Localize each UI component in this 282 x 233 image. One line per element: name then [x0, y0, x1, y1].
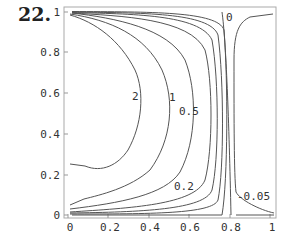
y-tick-label: 0.4 — [40, 128, 60, 141]
y-tick-label: 0.6 — [40, 87, 60, 100]
x-tick-label: 0.2 — [100, 221, 120, 233]
contour-level-1 — [70, 14, 170, 205]
y-tick-label: 1 — [53, 6, 60, 19]
x-tick-label: 0.4 — [140, 221, 160, 233]
x-tick-label: 0 — [67, 221, 74, 233]
contour-label: 2 — [132, 90, 139, 103]
contour-label: 0 — [226, 11, 233, 24]
contour-level-0.02 — [72, 12, 227, 216]
y-tick-label: 0.8 — [40, 46, 60, 59]
contour-level-neg-0.05 — [234, 14, 274, 213]
x-tick-label: 1 — [269, 221, 276, 233]
contour-label: 1 — [169, 91, 176, 104]
contour-label: -0.05 — [237, 190, 270, 203]
contour-lines — [70, 12, 274, 216]
y-tick-label: 0.2 — [40, 169, 60, 182]
y-tick-label: 0 — [53, 209, 60, 222]
x-tick-label: 0.6 — [180, 221, 200, 233]
contour-label: 0.2 — [174, 180, 194, 193]
y-ticks — [64, 12, 68, 215]
contour-level-2 — [70, 15, 141, 169]
x-tick-label: 0.8 — [221, 221, 241, 233]
contour-label: 0.5 — [179, 105, 199, 118]
contour-plot: 0 0.2 0.4 0.6 0.8 1 0 0.2 0.4 0.6 0.8 1 … — [0, 0, 282, 233]
